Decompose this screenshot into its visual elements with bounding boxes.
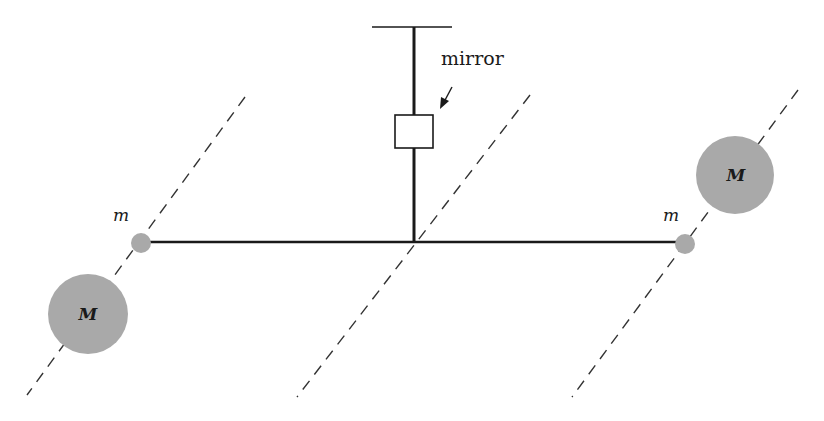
small-mass-right-label: m — [663, 205, 679, 225]
small-mass-left-label: m — [113, 205, 129, 225]
mirror-arrow-icon — [440, 87, 452, 109]
mirror-box — [395, 115, 433, 148]
large-mass-right-label: M — [726, 165, 747, 185]
mirror-label: mirror — [441, 47, 505, 69]
diagram-canvas: mirror m m M M — [0, 0, 824, 421]
large-mass-left-label: M — [78, 304, 99, 324]
torsion-balance-figure: mirror m m M M — [0, 0, 824, 421]
small-mass-right — [675, 234, 695, 254]
small-mass-left — [131, 233, 151, 253]
